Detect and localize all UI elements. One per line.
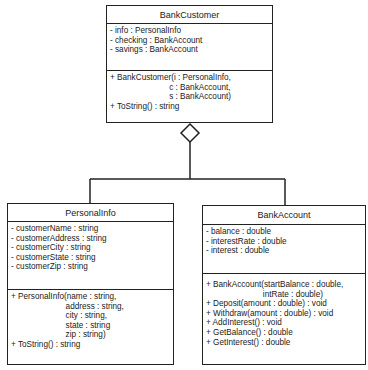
operations-section: + BankAccount(startBalance : double, int… [203, 274, 365, 349]
operation: + GetBalance() : double [206, 328, 362, 338]
operation: + Withdraw(amount : double) : void [206, 309, 362, 319]
attributes-section: - info : PersonalInfo - checking : BankA… [107, 24, 272, 71]
attribute: - interest : double [206, 246, 362, 256]
attribute: - interestRate : double [206, 237, 362, 247]
operations-section: + BankCustomer(i : PersonalInfo, c : Ban… [107, 71, 272, 113]
operation: + AddInterest() : void [206, 318, 362, 328]
attributes-section: - customerName : string - customerAddres… [8, 222, 173, 290]
operation: + GetInterest() : double [206, 338, 362, 348]
operation: intRate : double) [206, 290, 362, 300]
attribute: - customerZip : string [11, 262, 170, 272]
attribute: - customerAddress : string [11, 234, 170, 244]
attribute: - checking : BankAccount [110, 36, 269, 46]
attributes-section: - balance : double - interestRate : doub… [203, 225, 365, 274]
operation: address : string, [11, 302, 170, 312]
operation: + ToString() : string [110, 102, 269, 112]
aggregation-diamond-icon [181, 124, 199, 142]
attribute: - savings : BankAccount [110, 45, 269, 55]
operation: c : BankAccount, [110, 83, 269, 93]
class-bank-customer: BankCustomer - info : PersonalInfo - che… [106, 5, 273, 123]
attribute: - info : PersonalInfo [110, 26, 269, 36]
attribute: - customerCity : string [11, 243, 170, 253]
operation: city : string, [11, 311, 170, 321]
operation: zip : string) [11, 330, 170, 340]
operation: + BankCustomer(i : PersonalInfo, [110, 73, 269, 83]
operation: state : string [11, 321, 170, 331]
class-name: PersonalInfo [8, 204, 173, 222]
operation: s : BankAccount) [110, 92, 269, 102]
attribute: - balance : double [206, 227, 362, 237]
operation: + PersonalInfo(name : string, [11, 292, 170, 302]
class-name: BankAccount [203, 206, 365, 225]
operation: + ToString() : string [11, 340, 170, 350]
class-personal-info: PersonalInfo - customerName : string - c… [7, 203, 174, 365]
operation: + BankAccount(startBalance : double, [206, 280, 362, 290]
attribute: - customerState : string [11, 253, 170, 263]
operation: + Deposit(amount : double) : void [206, 299, 362, 309]
attribute: - customerName : string [11, 224, 170, 234]
operations-section: + PersonalInfo(name : string, address : … [8, 290, 173, 352]
class-name: BankCustomer [107, 6, 272, 24]
class-bank-account: BankAccount - balance : double - interes… [202, 205, 366, 365]
